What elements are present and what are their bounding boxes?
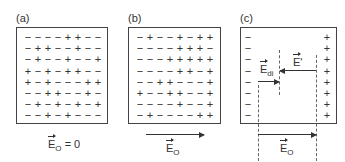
negative-charge: − (23, 110, 33, 121)
negative-charge: − (135, 54, 145, 65)
right-boundary-dashed-line (316, 55, 317, 161)
left-surface-charges: −−−−−−−− (243, 32, 253, 122)
negative-charge: − (53, 54, 63, 65)
panel-c-label: (c) (240, 12, 253, 24)
negative-charge: − (93, 110, 103, 121)
e-di-label: Edi (260, 63, 274, 78)
negative-charge: − (73, 110, 83, 121)
positive-charge: + (205, 110, 215, 121)
positive-charge: + (185, 54, 195, 65)
negative-charge: − (155, 54, 165, 65)
negative-charge: − (33, 110, 43, 121)
negative-charge: − (83, 110, 93, 121)
e-di-arrow (258, 81, 279, 82)
positive-charge: + (165, 54, 175, 65)
panel-c-field-arrow (258, 134, 316, 135)
negative-charge: − (165, 110, 175, 121)
panel-a-charge-grid: −−−−++−−−++−−+−−−+−−+−−++−+−++−−+−+−−−++… (23, 32, 103, 122)
negative-charge: − (155, 110, 165, 121)
panel-a-label: (a) (16, 12, 29, 24)
negative-charge: − (23, 54, 33, 65)
negative-charge: − (53, 110, 63, 121)
panel-b-field-arrow (146, 134, 204, 135)
panel-a-dielectric-box: −−−−++−−−++−−+−−−+−−+−−++−+−++−−+−+−−−++… (16, 27, 108, 124)
positive-charge: + (175, 54, 185, 65)
panel-b-charge-grid: −+−−+−++−−−−+++−−−−+++++−−−−++−+−−++−−−+… (135, 32, 215, 122)
positive-charge: + (43, 110, 53, 121)
negative-charge: − (73, 54, 83, 65)
e-prime-label: E' (293, 56, 302, 68)
panel-a-field-label: EO = 0 (48, 138, 80, 153)
positive-charge: + (322, 54, 332, 65)
e-prime-arrow (280, 70, 316, 71)
left-boundary-dashed-line (258, 85, 259, 161)
negative-charge: − (243, 110, 253, 121)
panel-b-label: (b) (128, 12, 141, 24)
negative-charge: − (145, 54, 155, 65)
positive-charge: + (63, 54, 73, 65)
negative-charge: − (243, 54, 253, 65)
negative-charge: − (135, 110, 145, 121)
positive-charge: + (322, 110, 332, 121)
negative-charge: − (43, 54, 53, 65)
negative-charge: − (83, 54, 93, 65)
panel-b-field-label: EO (166, 142, 180, 157)
positive-charge: + (195, 110, 205, 121)
negative-charge: − (175, 110, 185, 121)
positive-charge: + (195, 54, 205, 65)
positive-charge: + (145, 110, 155, 121)
panel-c-dielectric-box: −−−−−−−− ++++++++ (240, 27, 337, 124)
positive-charge: + (33, 54, 43, 65)
positive-charge: + (63, 110, 73, 121)
positive-charge: + (93, 54, 103, 65)
positive-charge: + (205, 54, 215, 65)
panel-b-dielectric-box: −+−−+−++−−−−+++−−−−+++++−−−−++−+−−++−−−+… (128, 27, 221, 124)
right-surface-charges: ++++++++ (322, 32, 332, 122)
panel-c-field-label: EO (280, 142, 294, 157)
negative-charge: − (185, 110, 195, 121)
